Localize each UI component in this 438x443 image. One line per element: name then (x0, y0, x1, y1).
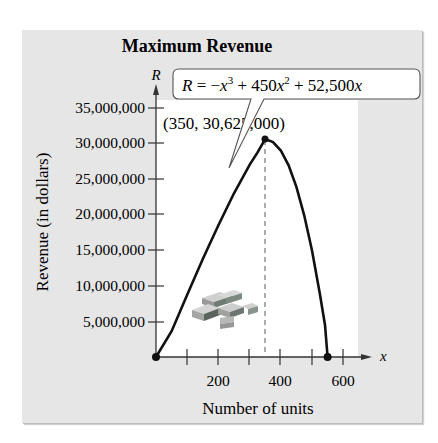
x-axis-arrow-icon (361, 354, 372, 360)
y-axis-title: Revenue (in dollars) (33, 153, 52, 292)
y-tick-label: 5,000,000 (83, 313, 145, 330)
origin-point (152, 353, 160, 361)
x-tick-label: 600 (331, 372, 355, 389)
y-tick-label: 30,000,000 (75, 134, 145, 151)
y-axis-arrow-icon (153, 84, 159, 95)
zero-point-550 (324, 353, 332, 361)
y-tick-label: 25,000,000 (75, 170, 145, 187)
revenue-chart: Maximum Revenue Revenue (in dollars) Num… (0, 0, 438, 443)
y-tick-label: 10,000,000 (75, 277, 145, 294)
svg-text:R = −x3 + 450x2 + 52,500x: R = −x3 + 450x2 + 52,500x (181, 74, 363, 95)
peak-label: (350, 30,625,000) (163, 114, 285, 133)
x-tick-label: 400 (268, 372, 292, 389)
y-axis-symbol: R (150, 67, 160, 83)
x-axis-symbol: x (379, 348, 387, 364)
y-axis: R 35,000,000 30,000,000 25,000,000 20,00… (75, 67, 164, 357)
y-tick-label: 20,000,000 (75, 205, 145, 222)
y-tick-label: 15,000,000 (75, 241, 145, 258)
chart-title: Maximum Revenue (122, 36, 272, 56)
x-axis-title: Number of units (202, 399, 313, 418)
plot-area (156, 100, 358, 357)
max-point (262, 136, 269, 143)
x-tick-label: 200 (206, 372, 230, 389)
y-tick-label: 35,000,000 (75, 99, 145, 116)
